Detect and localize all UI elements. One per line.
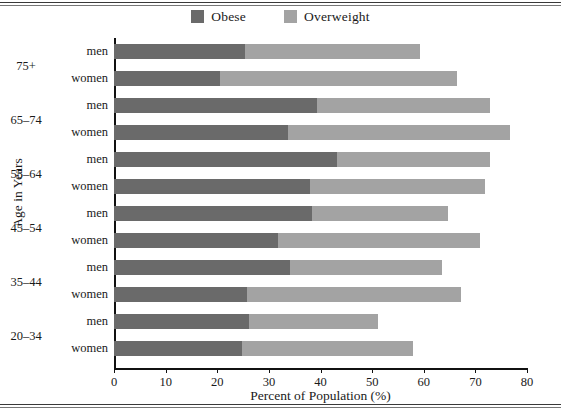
- x-tick: [166, 368, 167, 373]
- bar-segment-obese: [114, 71, 220, 86]
- group-label: 65–74: [0, 113, 52, 128]
- bar-row: [114, 125, 510, 140]
- bar-segment-obese: [114, 179, 310, 194]
- bar-row: [114, 233, 480, 248]
- legend-label-obese: Obese: [211, 10, 246, 23]
- row-label-men: men: [38, 206, 108, 221]
- group-label: 20–34: [0, 329, 52, 344]
- x-tick: [114, 368, 115, 373]
- legend-label-overweight: Overweight: [304, 10, 370, 23]
- x-tick: [475, 368, 476, 373]
- figure-bottom-rule-secondary: [0, 407, 561, 408]
- figure-bottom-rule: [0, 404, 561, 405]
- bar-row: [114, 341, 413, 356]
- x-tick: [424, 368, 425, 373]
- x-axis-title: Percent of Population (%): [114, 388, 527, 404]
- bar-segment-overweight: [220, 71, 457, 86]
- x-tick: [217, 368, 218, 373]
- bar-segment-overweight: [337, 152, 490, 167]
- figure-top-rule: [0, 2, 561, 3]
- bar-segment-obese: [114, 287, 247, 302]
- legend-entry-overweight: Overweight: [284, 10, 370, 23]
- bar-segment-overweight: [290, 260, 442, 275]
- bar-segment-overweight: [288, 125, 510, 140]
- plot-area: 01020304050607080: [114, 38, 527, 368]
- bar-segment-obese: [114, 260, 290, 275]
- bar-segment-obese: [114, 44, 245, 59]
- y-axis-title: Age in Years: [10, 123, 26, 263]
- group-label: 75+: [0, 59, 52, 74]
- x-tick: [372, 368, 373, 373]
- row-label-men: men: [38, 314, 108, 329]
- bar-segment-obese: [114, 125, 288, 140]
- figure-top-rule-secondary: [0, 5, 561, 6]
- x-tick: [321, 368, 322, 373]
- chart-figure: Obese Overweight 01020304050607080 menwo…: [0, 0, 561, 411]
- row-label-men: men: [38, 44, 108, 59]
- bar-segment-obese: [114, 206, 312, 221]
- bar-segment-obese: [114, 152, 337, 167]
- group-label: 55–64: [0, 167, 52, 182]
- bar-segment-overweight: [312, 206, 448, 221]
- bar-row: [114, 44, 420, 59]
- bar-row: [114, 260, 442, 275]
- bar-row: [114, 206, 448, 221]
- bar-segment-overweight: [310, 179, 485, 194]
- bar-row: [114, 287, 461, 302]
- x-tick: [269, 368, 270, 373]
- bar-segment-obese: [114, 98, 317, 113]
- bar-segment-obese: [114, 314, 249, 329]
- bar-segment-obese: [114, 341, 242, 356]
- bar-segment-obese: [114, 233, 278, 248]
- legend-swatch-overweight: [284, 10, 297, 23]
- group-label: 45–54: [0, 221, 52, 236]
- bar-segment-overweight: [245, 44, 420, 59]
- legend-swatch-obese: [191, 10, 204, 23]
- bar-segment-overweight: [249, 314, 378, 329]
- x-tick: [527, 368, 528, 373]
- bar-row: [114, 179, 485, 194]
- bar-row: [114, 71, 457, 86]
- bar-segment-overweight: [242, 341, 413, 356]
- bar-segment-overweight: [247, 287, 461, 302]
- row-label-men: men: [38, 98, 108, 113]
- bar-row: [114, 152, 490, 167]
- row-label-men: men: [38, 260, 108, 275]
- bar-segment-overweight: [278, 233, 480, 248]
- legend-entry-obese: Obese: [191, 10, 246, 23]
- chart-legend: Obese Overweight: [0, 10, 561, 23]
- group-label: 35–44: [0, 275, 52, 290]
- bar-row: [114, 314, 378, 329]
- row-label-men: men: [38, 152, 108, 167]
- bar-segment-overweight: [317, 98, 490, 113]
- bar-row: [114, 98, 490, 113]
